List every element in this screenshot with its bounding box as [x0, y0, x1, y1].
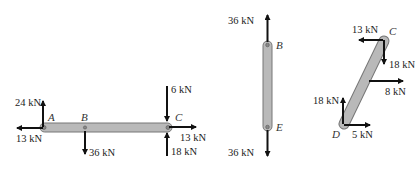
- force-label: 5 kN: [352, 129, 373, 140]
- beam-abc: [40, 123, 172, 132]
- member-abc: 24 kN 13 kN A B 36 kN 6 kN C 13 kN 18 kN: [15, 84, 206, 158]
- force-label: 6 kN: [171, 84, 192, 95]
- pin-b-icon: [266, 43, 270, 47]
- member-cd: 13 kN C 18 kN 8 kN 18 kN 5 kN D: [313, 24, 415, 140]
- pin-e-icon: [266, 125, 270, 129]
- force-label: 13 kN: [180, 132, 206, 143]
- force-label: 8 kN: [385, 86, 406, 97]
- force-label: 36 kN: [89, 147, 115, 158]
- point-label-e: E: [275, 121, 283, 133]
- force-label: 13 kN: [16, 133, 42, 144]
- force-label: 36 kN: [228, 147, 254, 158]
- force-label: 13 kN: [352, 24, 378, 35]
- fbd-diagram: 24 kN 13 kN A B 36 kN 6 kN C 13 kN 18 kN…: [0, 0, 420, 174]
- point-label-b: B: [276, 39, 283, 51]
- point-label-c: C: [389, 25, 397, 37]
- point-label-b: B: [81, 111, 88, 123]
- force-label: 24 kN: [15, 97, 41, 108]
- force-label: 18 kN: [389, 59, 415, 70]
- member-be: 36 kN B 36 kN E: [228, 15, 283, 158]
- point-label-d: D: [331, 128, 340, 140]
- force-label: 18 kN: [313, 95, 339, 106]
- beam-cd: [344, 41, 384, 124]
- force-label: 36 kN: [228, 15, 254, 26]
- beam-be: [263, 41, 272, 131]
- point-label-a: A: [47, 111, 55, 123]
- point-label-c: C: [175, 111, 183, 123]
- force-label: 18 kN: [171, 146, 197, 157]
- pin-b-icon: [83, 126, 86, 129]
